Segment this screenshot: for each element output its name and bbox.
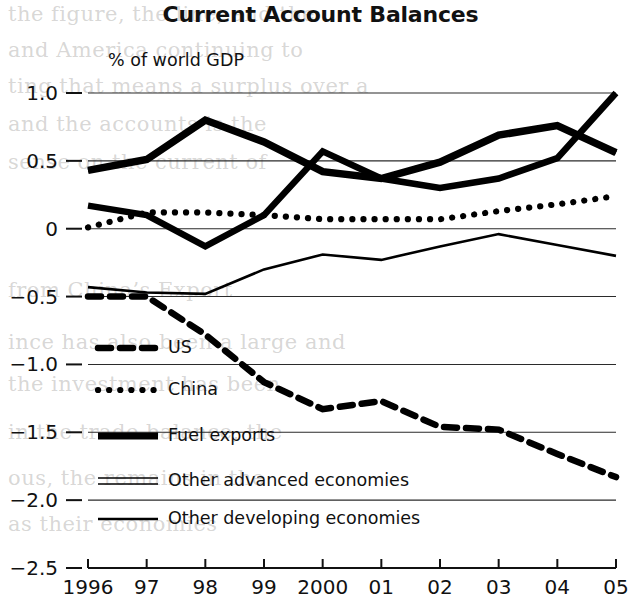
legend-item-fuel-exports[interactable]: Fuel exports [98, 425, 275, 445]
x-axis-tick-label: 99 [251, 575, 276, 599]
x-axis-tick-label: 04 [545, 575, 570, 599]
x-axis-tick-label: 2000 [297, 575, 348, 599]
x-axis-tick-label: 01 [369, 575, 394, 599]
y-axis-tick-label: 0.5 [26, 149, 58, 173]
legend-item-us[interactable]: US [98, 337, 192, 357]
y-axis-ticks-group: 1.00.50−0.5−1.0−1.5−2.0−2.5 [9, 81, 82, 580]
x-axis-tick-label: 97 [134, 575, 159, 599]
series-other-advanced-economies [88, 120, 616, 178]
y-axis-tick-label: −0.5 [9, 285, 58, 309]
y-axis-tick-label: −1.5 [9, 420, 58, 444]
legend-label: Fuel exports [168, 425, 275, 445]
legend-item-other-developing-economies[interactable]: Other developing economies [98, 508, 420, 528]
legend-label: China [168, 379, 218, 399]
legend-item-other-advanced-economies[interactable]: Other advanced economies [98, 470, 409, 490]
x-axis-tick-label: 98 [193, 575, 218, 599]
series-other-developing-economies [88, 234, 616, 294]
y-axis-tick-label: −2.5 [9, 556, 58, 580]
x-axis-tick-label: 02 [427, 575, 452, 599]
y-axis-tick-label: 0 [45, 217, 58, 241]
y-axis-tick-label: 1.0 [26, 81, 58, 105]
x-axis-group: 199697989920000102030405 [63, 559, 629, 599]
legend-label: US [168, 337, 192, 357]
x-axis-tick-label: 1996 [63, 575, 114, 599]
y-axis-tick-label: −2.0 [9, 488, 58, 512]
data-series-group [88, 93, 616, 477]
legend-label: Other developing economies [168, 508, 420, 528]
plot-area: 1.00.50−0.5−1.0−1.5−2.0−2.5 199697989920… [0, 0, 641, 604]
x-axis-tick-label: 03 [486, 575, 511, 599]
legend-item-china[interactable]: China [98, 379, 218, 399]
series-fuel-exports [88, 93, 616, 246]
legend-label: Other advanced economies [168, 470, 409, 490]
x-axis-tick-label: 05 [603, 575, 628, 599]
y-axis-tick-label: −1.0 [9, 352, 58, 376]
chart-figure: Current Account Balances % of world GDP … [0, 0, 641, 604]
